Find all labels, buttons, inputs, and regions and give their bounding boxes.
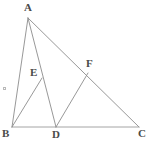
segment-AB — [12, 18, 28, 127]
geometry-figure: ABCDEF — [0, 0, 149, 142]
segment-AC — [28, 18, 139, 127]
segment-BE — [12, 78, 42, 127]
segment-DF — [56, 73, 88, 127]
geometry-canvas — [0, 0, 149, 142]
vertex-label-d: D — [52, 129, 60, 140]
vertex-label-c: C — [138, 128, 146, 139]
vertex-label-b: B — [2, 128, 9, 139]
vertex-label-e: E — [30, 67, 37, 78]
vertex-label-a: A — [24, 2, 32, 13]
vertex-label-f: F — [86, 58, 93, 69]
stray-mark — [3, 87, 6, 90]
